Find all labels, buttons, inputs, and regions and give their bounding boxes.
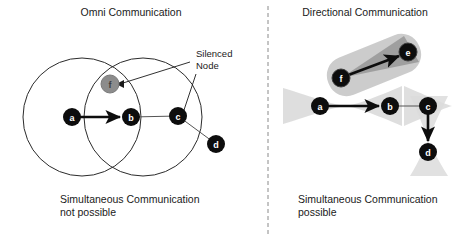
node-d: d [207,135,225,153]
node-d: d [419,143,437,161]
node-c: c [169,107,187,125]
left-caption-line1: Simultaneous Communication [60,193,200,205]
node-c-label: c [425,102,430,112]
node-b: b [122,108,140,126]
left-panel-title: Omni Communication [81,6,182,18]
node-c-label: c [175,112,180,122]
node-b-label: b [128,113,134,123]
node-a: a [311,97,329,115]
node-b-label: b [387,102,393,112]
node-f: f [332,69,350,87]
node-f-silenced: f [101,75,119,93]
right-caption-line2: possible [298,206,337,218]
silenced-node-label-line1: Silenced [196,48,232,59]
diagram-canvas: Omni Communication Silenced Node f a [0,0,461,241]
left-caption-line2: not possible [60,206,116,218]
node-d-label: d [425,148,431,158]
silenced-node-label-line2: Node [196,60,219,71]
right-caption-line1: Simultaneous Communication [298,193,438,205]
node-e-label: e [405,48,410,58]
node-e: e [399,43,417,61]
right-panel-title: Directional Communication [302,6,428,18]
node-a: a [63,108,81,126]
node-c: c [419,97,437,115]
node-b: b [381,97,399,115]
node-d-label: d [213,140,219,150]
network-communication-diagram: Omni Communication Silenced Node f a [0,0,461,241]
